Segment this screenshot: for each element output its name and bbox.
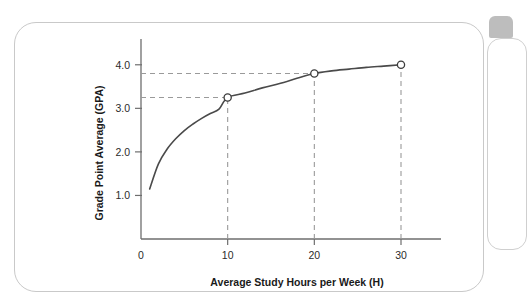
data-point-marker: [397, 61, 404, 68]
guide-lines: [141, 65, 401, 239]
x-tick-label: 0: [138, 249, 144, 261]
y-tick-label: 2.0: [115, 146, 130, 158]
x-tick-labels: 0102030: [138, 249, 407, 261]
chart-plot-area: 1.02.03.04.0 0102030 Average Study Hours…: [15, 23, 485, 293]
gpa-curve: [150, 65, 401, 189]
x-axis-title: Average Study Hours per Week (H): [210, 276, 383, 288]
x-tick-label: 20: [308, 249, 320, 261]
y-tick-labels: 1.02.03.04.0: [115, 59, 130, 202]
gpa-study-hours-line-chart: 1.02.03.04.0 0102030 Average Study Hours…: [15, 23, 485, 293]
data-point-marker: [311, 70, 318, 77]
data-point-marker: [224, 94, 231, 101]
x-axis-ticks: [228, 239, 401, 245]
side-panel-partial: [487, 38, 527, 250]
y-tick-label: 3.0: [115, 102, 130, 114]
side-tab-marker: [489, 16, 513, 38]
y-tick-label: 1.0: [115, 189, 130, 201]
chart-figure-panel: 1.02.03.04.0 0102030 Average Study Hours…: [14, 22, 484, 292]
x-tick-label: 30: [395, 249, 407, 261]
y-tick-label: 4.0: [115, 59, 130, 71]
y-axis-title: Grade Point Average (GPA): [93, 86, 105, 221]
x-tick-label: 10: [222, 249, 234, 261]
